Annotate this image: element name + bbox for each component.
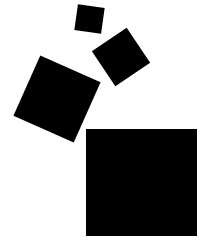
small-tilted-square [74,4,104,34]
base-square [86,129,197,236]
diagram-description: Four black squares on a white background… [0,0,1,1]
medium-tilted-square [92,28,150,86]
diagram-canvas: Four black squares on a white background… [0,0,207,243]
